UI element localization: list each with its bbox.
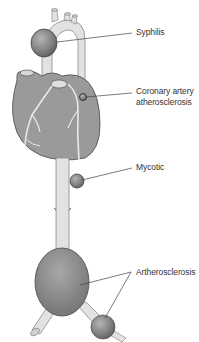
label-atherosclerosis: atherosclerosis (136, 97, 192, 108)
syphilis-aneurysm (31, 29, 57, 57)
iliac-aneurysm (91, 315, 115, 339)
label-mycotic: Mycotic (136, 162, 164, 173)
aorta-diagram (0, 0, 199, 342)
label-coronary-artery: Coronary artery (136, 86, 194, 97)
coronary-artery-lesion (80, 94, 87, 101)
heart (13, 70, 100, 160)
descending-aorta (54, 158, 71, 255)
label-syphilis: Syphilis (136, 27, 165, 38)
label-artherosclerosis: Artherosclerosis (136, 267, 195, 278)
mycotic-aneurysm (70, 174, 84, 188)
abdominal-aneurysm (35, 248, 89, 316)
